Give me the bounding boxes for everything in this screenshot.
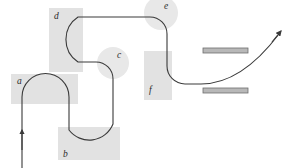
region-label-b: b — [63, 149, 68, 159]
region-label-e: e — [164, 1, 168, 11]
plate-bottom — [203, 88, 248, 93]
region-label-d: d — [54, 11, 59, 21]
plate-top — [203, 48, 248, 53]
figure-canvas: a b d f c e — [0, 0, 289, 168]
exit-arrow — [272, 31, 281, 42]
region-e-shape — [144, 0, 178, 30]
field-regions-group — [11, 0, 178, 160]
region-label-a: a — [17, 76, 22, 86]
physics-trajectory-figure: a b d f c e — [0, 0, 289, 168]
